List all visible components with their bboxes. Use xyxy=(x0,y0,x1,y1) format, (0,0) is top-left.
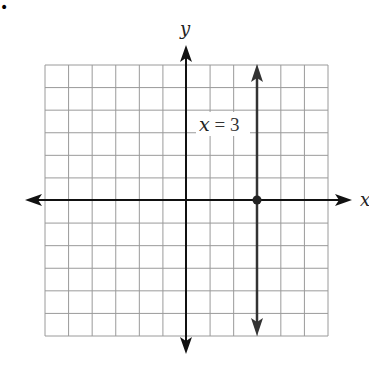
x-axis-label: x xyxy=(360,189,369,210)
coordinate-plane: x y x = 3 xyxy=(0,0,369,373)
equation-rest: = 3 xyxy=(210,114,240,135)
line-x-equals-3 xyxy=(251,64,263,336)
equation-var: x xyxy=(199,113,210,135)
x-axis: x xyxy=(25,189,369,210)
y-axis: y xyxy=(179,18,192,354)
y-axis-label: y xyxy=(179,18,191,39)
svg-text:x = 3: x = 3 xyxy=(199,113,239,135)
point-3-0 xyxy=(253,196,262,205)
equation-label: x = 3 xyxy=(196,112,250,136)
